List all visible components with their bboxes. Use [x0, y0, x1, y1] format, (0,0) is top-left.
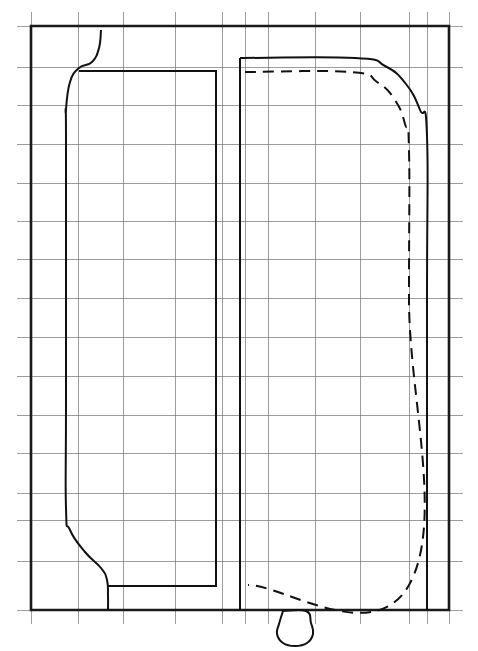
technical-drawing-canvas: Sectional Profile Drawing background gri… — [0, 0, 478, 651]
profile-left-profile-outer — [66, 30, 108, 610]
drawing-svg — [0, 0, 478, 651]
profile-bottom-teardrop — [277, 610, 314, 646]
profile-lines — [31, 26, 449, 646]
profile-left-profile-inner — [79, 71, 216, 586]
profile-hidden-profile-dashed — [245, 71, 425, 613]
